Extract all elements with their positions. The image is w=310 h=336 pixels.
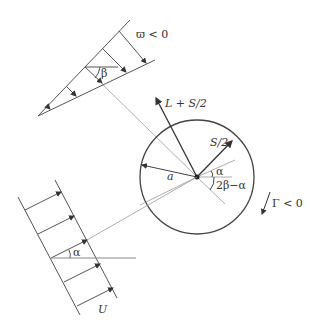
velocity-label: U xyxy=(98,303,108,316)
uniform-arrow xyxy=(38,216,74,234)
alpha-center-label: α xyxy=(216,165,224,178)
alpha-arc-center xyxy=(211,171,213,177)
uniform-arrow xyxy=(64,264,100,282)
flow-diagram: ϖ < 0 β a L + S/2 S/2 α 2β−α Γ < 0 α U xyxy=(0,0,310,336)
alpha-arc-flow xyxy=(69,250,70,258)
beta-label: β xyxy=(101,67,107,80)
lift-label: L + S/2 xyxy=(164,97,207,110)
shear-upper-line xyxy=(38,20,130,116)
uniform-connector-line xyxy=(87,177,197,240)
two-beta-alpha-label: 2β−α xyxy=(216,179,247,192)
omega-label: ϖ < 0 xyxy=(136,28,168,41)
uniform-front-line xyxy=(55,180,117,298)
two-beta-alpha-arc xyxy=(210,177,214,190)
alpha-flow-label: α xyxy=(73,246,81,259)
gamma-label: Γ < 0 xyxy=(272,197,303,210)
circulation-arrow xyxy=(262,192,270,214)
uniform-arrow xyxy=(25,192,61,210)
shear-arrow xyxy=(47,106,50,109)
s-half-label: S/2 xyxy=(210,136,228,149)
radius-label: a xyxy=(167,170,174,183)
shear-arrow xyxy=(66,86,76,96)
beta-arc xyxy=(95,67,100,78)
uniform-arrow xyxy=(51,240,87,258)
shear-lower-line xyxy=(38,60,155,116)
uniform-arrow xyxy=(77,288,113,306)
